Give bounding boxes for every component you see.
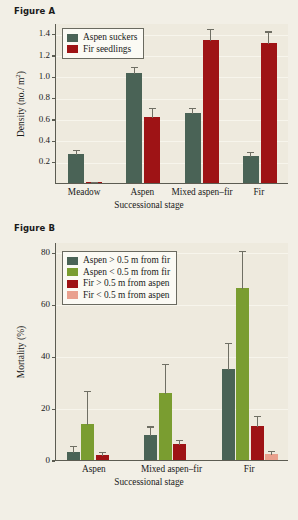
- error-bar-cap: [176, 440, 183, 441]
- error-bar-cap: [73, 150, 80, 151]
- figure-a-legend: Aspen suckersFir seedlings: [62, 28, 144, 59]
- legend-label-fir-seedlings: Fir seedlings: [83, 44, 131, 56]
- bar: [144, 117, 160, 183]
- bar: [68, 154, 84, 183]
- y-tick-mark: [52, 98, 56, 99]
- legend-item: Aspen < 0.5 m from fir: [67, 267, 170, 279]
- error-bar: [150, 426, 151, 435]
- y-tick-label: 1.4: [19, 28, 50, 38]
- legend-label-aspen-lt: Aspen < 0.5 m from fir: [83, 267, 170, 279]
- legend-swatch-fir-gt: [67, 280, 78, 288]
- y-tick-label: 0.6: [19, 114, 50, 124]
- bar: [173, 444, 186, 460]
- error-bar: [242, 251, 243, 289]
- y-tick-label: 80: [19, 247, 50, 257]
- legend-swatch-fir-lt: [67, 291, 78, 299]
- figure-b-title: Figure B: [14, 223, 298, 233]
- error-bar: [152, 108, 153, 118]
- legend-item: Aspen > 0.5 m from fir: [67, 255, 170, 267]
- x-tick-label: Meadow: [55, 187, 113, 197]
- error-bar: [268, 31, 269, 44]
- figure-b-block: Figure B Mortality (%) 020406080 AspenMi…: [0, 223, 298, 515]
- bar: [251, 426, 264, 460]
- gridline: [56, 99, 288, 100]
- y-tick-mark: [52, 77, 56, 78]
- error-bar-cap: [99, 452, 106, 453]
- gridline: [56, 120, 288, 121]
- legend-item: Fir > 0.5 m from aspen: [67, 278, 170, 290]
- x-tick-label: Mixed aspen–fir: [172, 187, 230, 197]
- legend-label-aspen-suckers: Aspen suckers: [83, 32, 137, 44]
- figure-a-chart: Density (no./ m2) 0.20.40.60.81.01.21.4 …: [0, 16, 298, 212]
- figure-a-x-axis-title: Successional stage: [0, 200, 298, 210]
- error-bar-cap: [265, 31, 272, 32]
- bar: [81, 424, 94, 460]
- y-tick-label: 0: [19, 455, 50, 465]
- error-bar-cap: [189, 108, 196, 109]
- legend-swatch-aspen-gt: [67, 257, 78, 265]
- legend-swatch-aspen-suckers: [67, 34, 78, 42]
- y-tick-mark: [52, 460, 56, 461]
- bar: [236, 288, 249, 460]
- y-tick-mark: [52, 34, 56, 35]
- bar: [144, 435, 157, 460]
- error-bar-cap: [207, 29, 214, 30]
- error-bar-cap: [91, 182, 98, 183]
- error-bar-cap: [239, 251, 246, 252]
- y-tick-mark: [52, 409, 56, 410]
- y-tick-label: 60: [19, 299, 50, 309]
- y-tick-mark: [52, 141, 56, 142]
- bar: [159, 393, 172, 460]
- x-tick-label: Aspen: [113, 187, 171, 197]
- error-bar-cap: [131, 67, 138, 68]
- y-tick-label: 0.4: [19, 135, 50, 145]
- legend-swatch-fir-seedlings: [67, 45, 78, 53]
- error-bar-cap: [147, 426, 154, 427]
- error-bar: [165, 364, 166, 394]
- bar: [243, 156, 259, 183]
- y-tick-label: 0.2: [19, 156, 50, 166]
- bar: [185, 113, 201, 183]
- figure-a-y-axis-title-text: Density (no./ m: [16, 78, 26, 137]
- error-bar: [134, 67, 135, 74]
- y-tick-label: 1.0: [19, 71, 50, 81]
- y-tick-label: 1.2: [19, 50, 50, 60]
- y-tick-mark: [52, 55, 56, 56]
- error-bar: [228, 343, 229, 370]
- error-bar-cap: [70, 446, 77, 447]
- figure-b-legend: Aspen > 0.5 m from firAspen < 0.5 m from…: [62, 251, 177, 305]
- figure-a-block: Figure A Density (no./ m2) 0.20.40.60.81…: [0, 6, 298, 218]
- x-tick-label: Mixed aspen–fir: [133, 464, 211, 474]
- figure-b-x-axis-title: Successional stage: [0, 477, 298, 487]
- gridline: [56, 357, 288, 358]
- error-bar-cap: [247, 152, 254, 153]
- legend-swatch-aspen-lt: [67, 268, 78, 276]
- legend-label-aspen-gt: Aspen > 0.5 m from fir: [83, 255, 170, 267]
- error-bar-cap: [254, 416, 261, 417]
- bar: [222, 369, 235, 460]
- error-bar-cap: [149, 108, 156, 109]
- x-tick-label: Fir: [230, 187, 288, 197]
- gridline: [56, 305, 288, 306]
- bar: [261, 43, 277, 183]
- gridline: [56, 409, 288, 410]
- y-tick-mark: [52, 253, 56, 254]
- y-tick-mark: [52, 357, 56, 358]
- y-tick-label: 40: [19, 351, 50, 361]
- legend-label-fir-gt: Fir > 0.5 m from aspen: [83, 278, 170, 290]
- figure-b-chart: Mortality (%) 020406080 AspenMixed aspen…: [0, 233, 298, 511]
- error-bar-cap: [268, 451, 275, 452]
- y-tick-mark: [52, 162, 56, 163]
- x-tick-label: Fir: [210, 464, 288, 474]
- bar: [67, 452, 80, 460]
- bar: [203, 40, 219, 183]
- legend-label-fir-lt: Fir < 0.5 m from aspen: [83, 290, 170, 302]
- legend-item: Fir < 0.5 m from aspen: [67, 290, 170, 302]
- figure-a-title: Figure A: [14, 6, 298, 16]
- legend-item: Aspen suckers: [67, 32, 137, 44]
- error-bar: [87, 391, 88, 425]
- error-bar-cap: [225, 343, 232, 344]
- error-bar-cap: [162, 364, 169, 365]
- error-bar: [257, 416, 258, 428]
- x-tick-label: Aspen: [55, 464, 133, 474]
